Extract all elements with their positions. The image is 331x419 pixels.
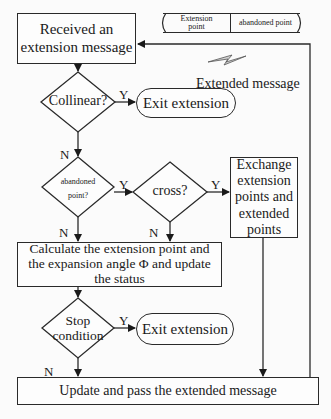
exit-extension-node-1: Exit extension bbox=[136, 88, 236, 118]
lightning-icon bbox=[208, 55, 246, 65]
abandoned-point-field: abandoned point bbox=[231, 14, 300, 32]
decision-label: Stop bbox=[42, 313, 114, 328]
edge-label-yes: Y bbox=[119, 87, 128, 103]
calculate-node: Calculate the extension point and the ex… bbox=[17, 242, 222, 287]
edge-label-no: N bbox=[44, 364, 53, 380]
edge-label-no: N bbox=[60, 147, 69, 163]
edge-label-yes: Y bbox=[211, 177, 220, 193]
stop-condition-decision: Stop condition bbox=[42, 313, 114, 343]
start-node: Received an extension message bbox=[17, 13, 136, 64]
update-node: Update and pass the extended message bbox=[17, 377, 319, 405]
exchange-node: Exchange extension points and extended p… bbox=[230, 157, 298, 238]
decision-label: condition bbox=[42, 328, 114, 343]
left-bracket-icon bbox=[159, 13, 167, 33]
abandoned-point-decision: abandoned point? bbox=[42, 175, 114, 203]
field-label: point bbox=[188, 23, 204, 31]
edge-label-yes: Y bbox=[119, 313, 128, 329]
decision-label: point? bbox=[42, 189, 114, 203]
edge-label-no: N bbox=[149, 225, 158, 241]
exit-extension-node-2: Exit extension bbox=[136, 313, 234, 345]
edge-label-yes: Y bbox=[119, 177, 128, 193]
collinear-decision: Collinear? bbox=[41, 93, 115, 109]
edge-label-no: N bbox=[59, 225, 68, 241]
right-bracket-icon bbox=[296, 13, 304, 33]
cross-decision: cross? bbox=[133, 183, 207, 199]
message-format: Extension point abandoned point bbox=[163, 13, 300, 33]
extension-point-field: Extension point bbox=[163, 14, 231, 32]
decision-label: abandoned bbox=[42, 175, 114, 189]
